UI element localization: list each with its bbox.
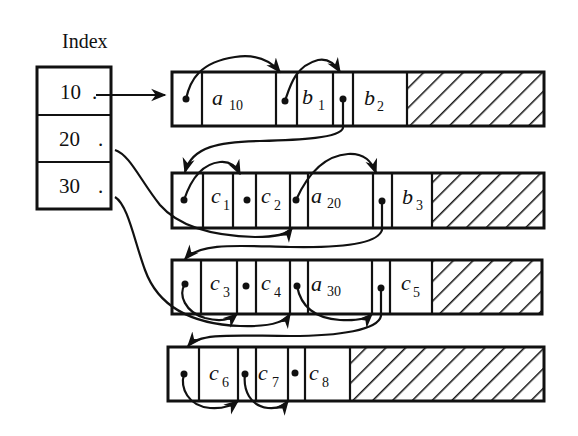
svg-text:1: 1 [223, 198, 230, 213]
cell-c7: c 7 [258, 360, 279, 390]
free-space [432, 173, 544, 228]
svg-text:7: 7 [272, 375, 279, 390]
index-title: Index [62, 30, 108, 52]
cell-a10: a 10 [212, 85, 243, 113]
index-marker: . [98, 174, 103, 198]
block-4: c 6 c 7 c 8 [168, 347, 544, 401]
free-space [432, 260, 542, 314]
free-space [407, 72, 544, 126]
cell-b3: b 3 [402, 184, 423, 213]
svg-text:c: c [209, 360, 219, 385]
svg-text:c: c [211, 183, 221, 208]
svg-text:c: c [309, 360, 319, 385]
index-marker: . [98, 127, 103, 151]
svg-text:5: 5 [413, 285, 420, 300]
svg-text:c: c [258, 360, 268, 385]
svg-text:b: b [402, 184, 413, 209]
arrow-b3-to-b4 [188, 288, 381, 346]
svg-text:3: 3 [416, 198, 423, 213]
svg-text:30: 30 [327, 284, 341, 299]
cell-c3: c 3 [210, 270, 230, 300]
svg-text:b: b [302, 84, 313, 109]
diagram-canvas: Index 10 . 20 . 30 . a 10 [0, 0, 578, 436]
svg-text:c: c [210, 270, 220, 295]
cell-b2: b 2 [364, 85, 384, 114]
svg-text:1: 1 [318, 98, 325, 113]
svg-text:a: a [311, 183, 322, 208]
index-key: 20 [59, 127, 80, 151]
index-key: 10 [60, 80, 81, 104]
index-marker: . [92, 80, 97, 104]
cell-c6: c 6 [209, 360, 229, 390]
arrow-b1-p0 [186, 56, 280, 99]
svg-text:2: 2 [377, 99, 384, 114]
cell-c1: c 1 [211, 183, 230, 213]
svg-text:a: a [212, 85, 223, 110]
cell-c4: c 4 [261, 270, 281, 300]
svg-text:c: c [261, 270, 271, 295]
pointer-dot [243, 283, 250, 290]
index-key: 30 [59, 174, 80, 198]
block-2: c 1 c 2 a 20 b 3 [172, 173, 544, 228]
svg-text:3: 3 [223, 285, 230, 300]
pointer-dot [292, 370, 299, 377]
cell-c2: c 2 [261, 183, 281, 213]
pointer-dot [244, 197, 251, 204]
free-space [350, 347, 544, 401]
block-1: a 10 b 1 b 2 [172, 72, 544, 126]
cell-b1: b 1 [302, 84, 325, 113]
svg-text:2: 2 [274, 198, 281, 213]
svg-text:a: a [311, 271, 322, 296]
svg-text:8: 8 [322, 375, 329, 390]
svg-text:c: c [401, 270, 411, 295]
svg-text:c: c [261, 183, 271, 208]
arrow-b2-to-b3 [185, 201, 382, 259]
cell-c8: c 8 [309, 360, 329, 390]
cell-a30: a 30 [311, 271, 341, 299]
index-table: Index 10 . 20 . 30 . [37, 30, 111, 209]
cell-a20: a 20 [311, 183, 341, 211]
svg-text:6: 6 [222, 375, 229, 390]
index-entry-10[interactable]: 10 . [60, 80, 97, 104]
svg-text:10: 10 [229, 98, 243, 113]
svg-text:b: b [364, 85, 375, 110]
svg-text:20: 20 [327, 196, 341, 211]
cell-c5: c 5 [401, 270, 420, 300]
svg-text:4: 4 [274, 285, 281, 300]
block-3: c 3 c 4 a 30 c 5 [172, 260, 542, 314]
